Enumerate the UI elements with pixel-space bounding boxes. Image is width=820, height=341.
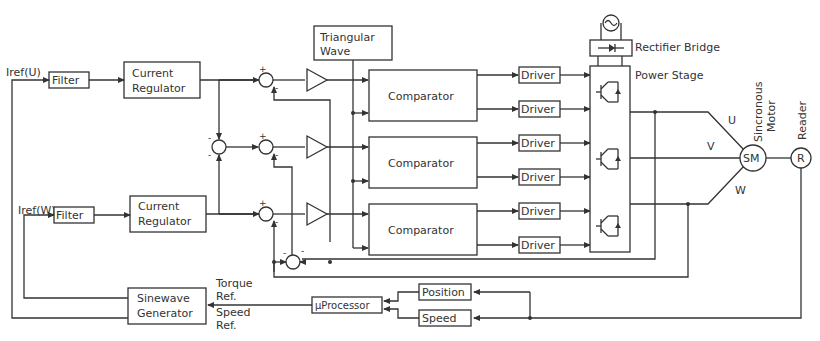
svg-text:Triangular: Triangular — [319, 31, 375, 44]
phase-w-label: W — [735, 184, 746, 197]
driver-6: Driver — [519, 237, 560, 253]
synchronous-motor: SM — [740, 145, 766, 171]
svg-text:Position: Position — [422, 286, 465, 299]
svg-text:+: + — [259, 131, 267, 141]
summing-junction-u: + - — [219, 64, 278, 93]
comparator-2-block: Comparator — [369, 137, 477, 188]
svg-text:R: R — [797, 152, 805, 165]
svg-text:Driver: Driver — [521, 205, 555, 218]
svg-text:Speed: Speed — [422, 312, 456, 325]
rectifier-bridge-label: Rectifier Bridge — [635, 41, 720, 54]
triangular-wave-block: Triangular Wave — [314, 26, 392, 60]
svg-text:Sinewave: Sinewave — [137, 292, 190, 305]
motor-label-1: Sincronous — [752, 81, 765, 142]
speed-ref-label-2: Ref. — [216, 319, 237, 332]
summing-junction-v-ref — [212, 140, 226, 154]
svg-text:Wave: Wave — [320, 45, 350, 58]
reader-encoder: R — [791, 148, 811, 168]
svg-text:Driver: Driver — [521, 137, 555, 150]
iref-u-label: Iref(U) — [6, 66, 41, 79]
phase-u-label: U — [728, 114, 736, 127]
phase-v-label: V — [707, 140, 715, 153]
svg-text:Comparator: Comparator — [388, 224, 454, 237]
driver-1: Driver — [519, 67, 560, 83]
svg-text:Driver: Driver — [521, 69, 555, 82]
svg-text:µProcessor: µProcessor — [315, 300, 370, 311]
reader-label: Reader — [796, 101, 809, 140]
svg-text:-: - — [208, 150, 211, 160]
svg-text:Filter: Filter — [56, 209, 84, 222]
position-block: Position — [419, 284, 471, 300]
power-stage-label: Power Stage — [635, 69, 704, 82]
svg-text:Generator: Generator — [137, 307, 193, 320]
svg-text:-: - — [275, 217, 278, 227]
torque-ref-label: Torque — [215, 277, 253, 290]
svg-text:Filter: Filter — [52, 74, 80, 87]
svg-text:Current: Current — [138, 200, 180, 213]
svg-text:-: - — [275, 150, 278, 160]
motor-control-block-diagram: Iref(U) Iref(W) Filter Filter Current Re… — [0, 0, 820, 341]
filter-u-block: Filter — [49, 72, 89, 88]
svg-text:-: - — [283, 248, 286, 258]
svg-text:Regulator: Regulator — [132, 82, 186, 95]
amplifier-w — [273, 203, 327, 225]
ac-source-icon — [601, 15, 621, 40]
svg-text:-: - — [301, 246, 304, 256]
svg-text:-: - — [208, 133, 211, 143]
svg-text:Driver: Driver — [521, 171, 555, 184]
rectifier-bridge-block — [590, 40, 632, 66]
summing-junction-v: + - — [259, 131, 278, 160]
comparator-3-block: Comparator — [369, 204, 477, 255]
svg-text:Comparator: Comparator — [388, 157, 454, 170]
svg-text:Regulator: Regulator — [138, 215, 192, 228]
microprocessor-block: µProcessor — [312, 297, 382, 313]
svg-text:Driver: Driver — [521, 239, 555, 252]
torque-ref-label-2: Ref. — [216, 290, 237, 303]
summing-junction-w: + - — [219, 198, 278, 227]
driver-4: Driver — [519, 169, 560, 185]
svg-text:+: + — [259, 198, 267, 208]
svg-text:SM: SM — [743, 152, 759, 165]
speed-block: Speed — [419, 310, 471, 326]
motor-label-2: Motor — [765, 100, 778, 132]
current-regulator-u-block: Current Regulator — [124, 62, 200, 98]
svg-text:Driver: Driver — [521, 103, 555, 116]
svg-text:Comparator: Comparator — [388, 90, 454, 103]
driver-3: Driver — [519, 135, 560, 151]
summing-junction-feedback — [286, 255, 300, 269]
svg-text:+: + — [259, 64, 267, 74]
svg-text:Current: Current — [132, 67, 174, 80]
amplifier-v — [273, 136, 327, 158]
comparator-1-block: Comparator — [369, 70, 477, 121]
current-regulator-w-block: Current Regulator — [130, 196, 206, 232]
sinewave-generator-block: Sinewave Generator — [128, 288, 206, 324]
filter-w-block: Filter — [54, 207, 94, 223]
svg-text:-: - — [275, 83, 278, 93]
driver-5: Driver — [519, 203, 560, 219]
amplifier-u — [273, 69, 327, 91]
driver-2: Driver — [519, 101, 560, 117]
speed-ref-label: Speed — [216, 306, 250, 319]
